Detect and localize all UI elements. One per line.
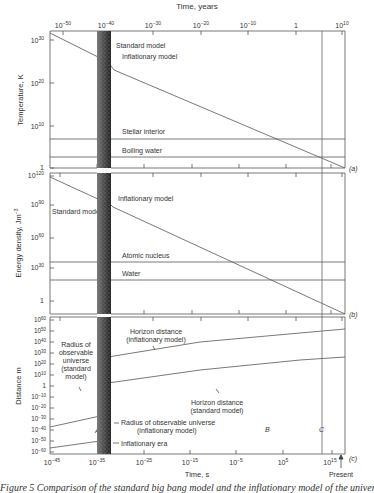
svg-text:10−15: 10−15 <box>182 457 198 466</box>
label-standard-model-a: Standard model <box>116 42 166 49</box>
svg-text:10−10: 10−10 <box>240 20 256 29</box>
panel-b-tag: (b) <box>349 311 358 319</box>
panel-b-energy-density <box>50 173 345 314</box>
horizon-standard-curve <box>108 357 345 383</box>
label-horizon-infl-1: Horizon distance <box>130 328 182 335</box>
top-axis-ticks: 10−50 10−40 10−30 10−20 10−10 1 1010 <box>55 20 349 29</box>
svg-text:1: 1 <box>42 382 46 389</box>
svg-text:1020: 1020 <box>31 78 45 87</box>
svg-text:10120: 10120 <box>28 170 44 179</box>
svg-text:1090: 1090 <box>31 199 45 208</box>
label-atomic-nucleus: Atomic nucleus <box>122 252 170 259</box>
panel-c-tag: (c) <box>349 455 357 463</box>
label-inflationary-era: Inflationary era <box>121 440 167 448</box>
svg-text:10−45: 10−45 <box>44 457 60 466</box>
svg-text:1010: 1010 <box>34 371 47 379</box>
label-standard-model-b: Standard model <box>52 208 102 215</box>
svg-text:10−40: 10−40 <box>31 426 46 434</box>
svg-text:1050: 1050 <box>34 327 47 335</box>
svg-text:(standard: (standard <box>61 365 91 373</box>
svg-text:10−20: 10−20 <box>31 404 46 412</box>
bottom-axis-title: Time, s <box>185 470 210 479</box>
svg-text:10−20: 10−20 <box>193 20 209 29</box>
svg-text:1030: 1030 <box>31 35 45 44</box>
top-axis-title: Time, years <box>176 2 218 11</box>
label-horizon-std-2: (standard model) <box>191 407 244 415</box>
svg-text:10−50: 10−50 <box>55 20 71 29</box>
svg-text:1010: 1010 <box>31 121 45 130</box>
panel-a-temperature <box>50 31 345 168</box>
svg-text:10−30: 10−30 <box>145 20 161 29</box>
present-label: Present <box>329 471 353 478</box>
svg-text:universe: universe <box>63 357 90 364</box>
svg-text:10−5: 10−5 <box>229 457 243 466</box>
label-radius-infl-1: Radius of observable universe <box>121 419 215 426</box>
panel-b-ylabel: Energy density, Jm−3 <box>13 208 23 277</box>
svg-text:10−30: 10−30 <box>31 415 46 423</box>
svg-text:105: 105 <box>278 457 289 466</box>
svg-text:1015: 1015 <box>323 457 337 466</box>
label-inflationary-model-a: Inflationary model <box>122 53 178 61</box>
svg-text:1060: 1060 <box>31 232 45 241</box>
svg-text:1030: 1030 <box>34 349 47 357</box>
cosmology-figure: Time, years 10−50 10−40 10−30 10−20 10−1… <box>0 0 374 493</box>
label-boiling-water: Boiling water <box>122 147 163 155</box>
svg-text:10−25: 10−25 <box>136 457 152 466</box>
panel-a-ylabel: Temperature, K <box>16 74 25 125</box>
panel-c-ylabel: Distance m <box>14 367 23 405</box>
svg-text:1: 1 <box>40 297 44 304</box>
svg-text:10−35: 10−35 <box>89 457 105 466</box>
svg-text:model): model) <box>65 373 86 381</box>
svg-text:10−60: 10−60 <box>31 448 46 456</box>
svg-text:1040: 1040 <box>34 338 47 346</box>
figure-caption: Figure 5 Comparison of the standard big … <box>0 482 374 493</box>
svg-text:1010: 1010 <box>335 20 349 29</box>
label-inflationary-model-b: Inflationary model <box>118 195 174 203</box>
svg-text:1030: 1030 <box>31 262 45 271</box>
svg-text:10−50: 10−50 <box>31 437 46 445</box>
label-horizon-infl-2: (inflationary model) <box>126 336 186 344</box>
svg-text:Radius of: Radius of <box>61 341 91 348</box>
label-radius-standard: Radius of observable universe (standard … <box>59 341 93 381</box>
label-radius-infl-2: (inflationary model) <box>137 427 197 435</box>
svg-text:1: 1 <box>294 22 298 29</box>
label-stellar-interior: Stellar interior <box>122 128 166 135</box>
svg-text:10−40: 10−40 <box>98 20 114 29</box>
present-arrow-icon <box>339 455 343 468</box>
region-b-label: B <box>265 426 270 433</box>
inflationary-era-band <box>97 31 111 454</box>
svg-text:10−10: 10−10 <box>31 393 46 401</box>
panel-a-tag: (a) <box>349 165 358 173</box>
label-water: Water <box>122 270 141 277</box>
svg-text:observable: observable <box>59 349 93 356</box>
label-horizon-std-1: Horizon distance <box>191 399 243 406</box>
svg-text:1060: 1060 <box>34 316 47 324</box>
svg-text:1020: 1020 <box>34 360 47 368</box>
